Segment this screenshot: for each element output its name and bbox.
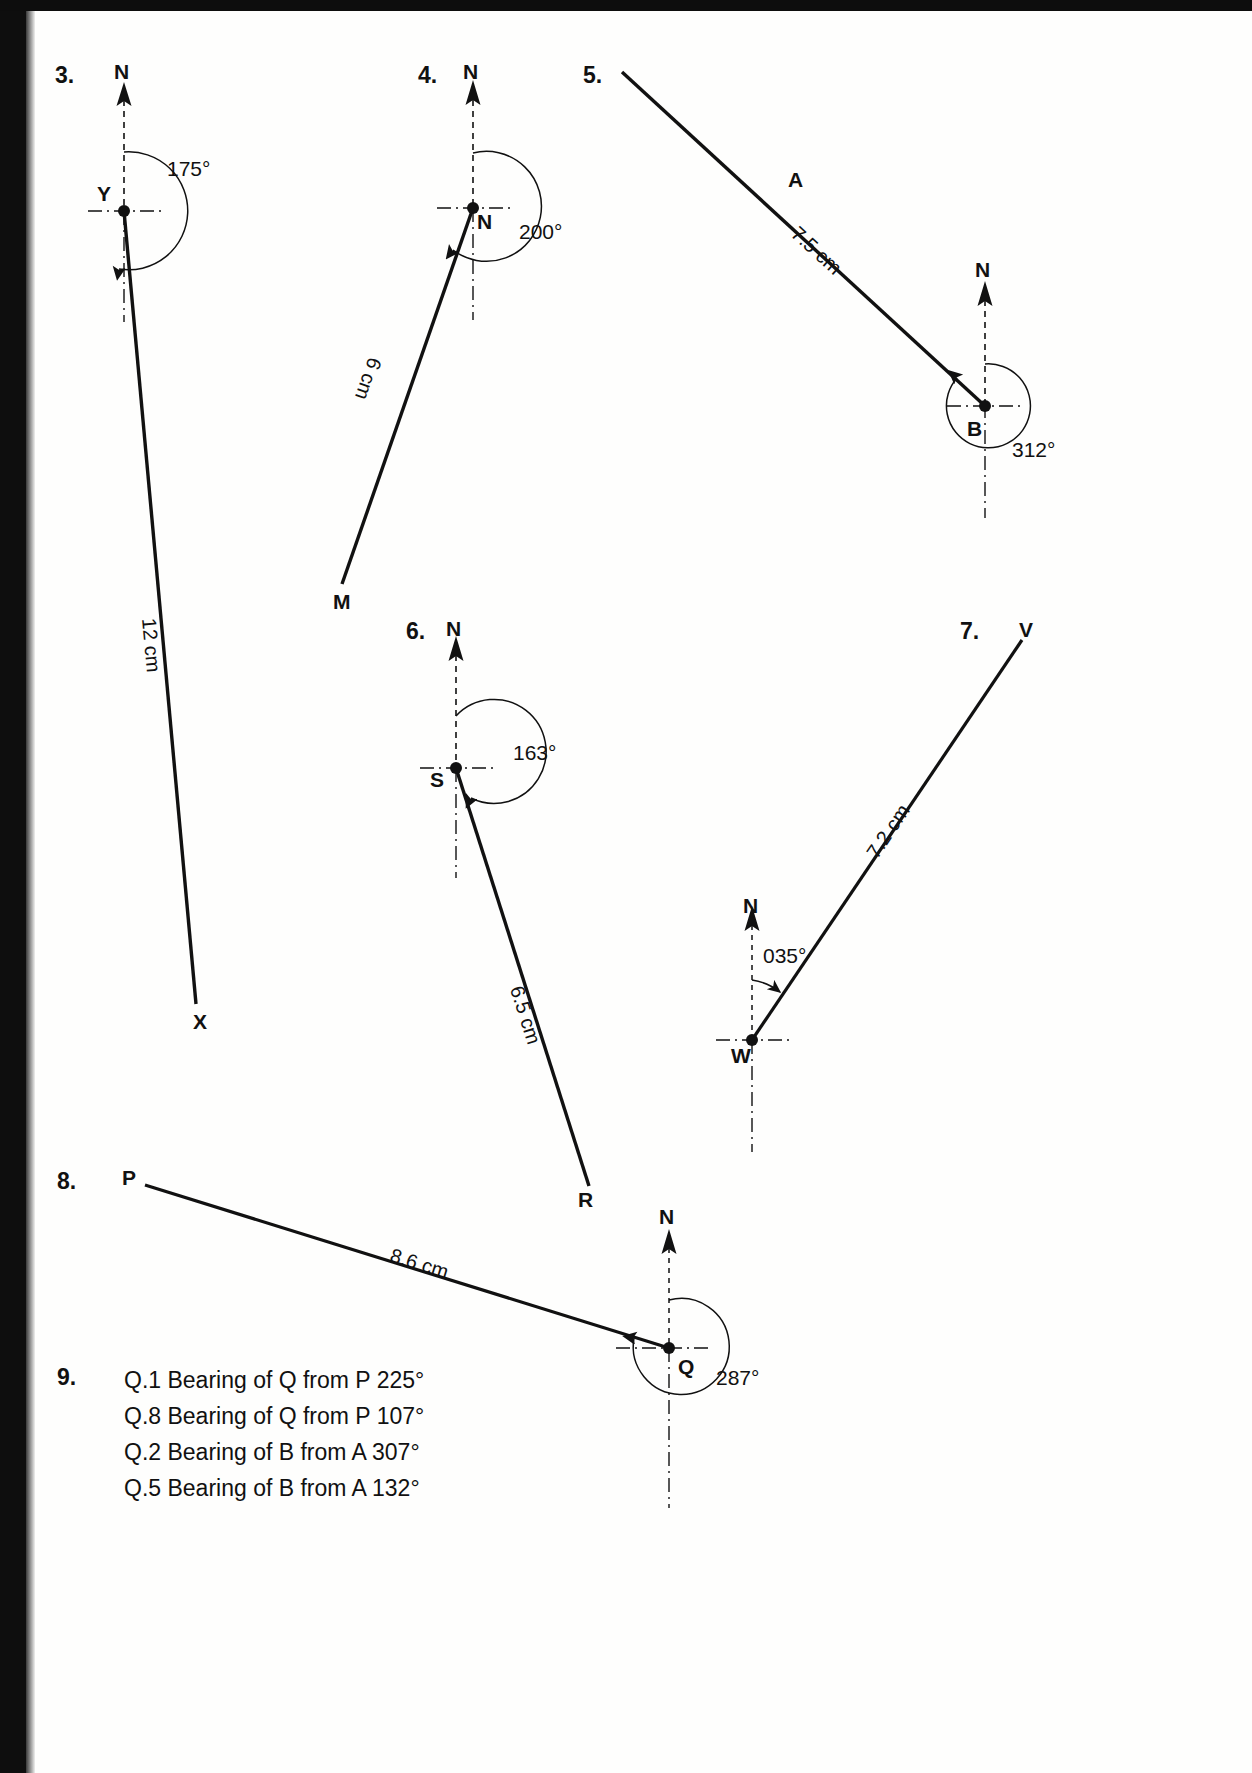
north-label-q7: N (743, 894, 758, 918)
north-label-q8: N (659, 1205, 674, 1229)
point-label-r: R (578, 1188, 593, 1212)
point-label-b: B (967, 417, 982, 441)
north-label-q5: N (975, 258, 990, 282)
scan-edge-left-gradient (26, 11, 35, 1773)
angle-label-q7: 035° (763, 944, 806, 968)
point-label-a: A (788, 168, 803, 192)
answers-line-1: Q.1 Bearing of Q from P 225° (124, 1362, 424, 1398)
angle-label-q5: 312° (1012, 438, 1055, 462)
question-number-7: 7. (960, 618, 979, 645)
point-label-x: X (193, 1010, 207, 1034)
paper-surface (35, 11, 1252, 1773)
answers-line-3: Q.2 Bearing of B from A 307° (124, 1434, 420, 1470)
question-number-3: 3. (55, 62, 74, 89)
point-label-q: Q (678, 1355, 694, 1379)
answers-line-2: Q.8 Bearing of Q from P 107° (124, 1398, 424, 1434)
point-label-m: M (333, 590, 351, 614)
angle-label-q6: 163° (513, 741, 556, 765)
question-number-8: 8. (57, 1168, 76, 1195)
scan-edge-left (0, 0, 26, 1773)
point-label-y: Y (97, 182, 111, 206)
answers-line-4: Q.5 Bearing of B from A 132° (124, 1470, 420, 1506)
angle-label-q4: 200° (519, 220, 562, 244)
point-label-v: V (1019, 618, 1033, 642)
length-label-q3: 12 cm (137, 617, 165, 673)
question-number-6: 6. (406, 618, 425, 645)
point-label-p: P (122, 1166, 136, 1190)
point-label-s: S (430, 768, 444, 792)
question-number-4: 4. (418, 62, 437, 89)
scan-edge-top (0, 0, 1252, 11)
angle-label-q3: 175° (167, 157, 210, 181)
angle-label-q8: 287° (716, 1366, 759, 1390)
worksheet-page: 3. N Y 175° 12 cm X 4. N N 200° 6 cm M 5… (0, 0, 1252, 1773)
question-number-5: 5. (583, 62, 602, 89)
north-label-q4: N (463, 60, 478, 84)
north-label-q3: N (114, 60, 129, 84)
point-label-n: N (477, 210, 492, 234)
north-label-q6: N (446, 617, 461, 641)
point-label-w: W (731, 1044, 751, 1068)
question-number-9: 9. (57, 1364, 76, 1391)
